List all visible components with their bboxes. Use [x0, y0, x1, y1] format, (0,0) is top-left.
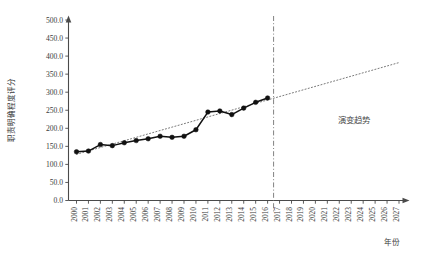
x-tick-label: 2011: [201, 207, 210, 222]
score-series-line: [77, 98, 268, 152]
data-point-marker: [86, 149, 91, 154]
data-point-marker: [158, 134, 163, 139]
chart-svg: 0.050.0100.0150.0200.0250.0300.0350.0400…: [0, 0, 424, 254]
x-tick-label: 2004: [117, 207, 126, 222]
x-axis-arrow: [403, 198, 410, 204]
y-axis-arrow: [66, 16, 72, 23]
data-point-marker: [134, 138, 139, 143]
x-tick-label: 2025: [368, 207, 377, 222]
x-tick-label-group: 2000200120022003200420052006200720082009…: [70, 207, 402, 222]
y-tick-label: 100.0: [46, 160, 63, 169]
y-tick-label: 500.0: [46, 16, 63, 25]
x-tick-label: 2017: [273, 207, 282, 222]
x-tick-label: 2019: [296, 207, 305, 222]
data-point-marker: [265, 96, 270, 101]
y-tick-label: 0.0: [54, 196, 64, 205]
x-tick-label: 2020: [308, 207, 317, 222]
x-tick-label: 2027: [392, 207, 401, 222]
x-tick-label: 2005: [129, 207, 138, 222]
y-tick-label: 300.0: [46, 88, 63, 97]
y-tick-label: 200.0: [46, 124, 63, 133]
y-tick-label: 350.0: [46, 70, 63, 79]
x-tick-label: 2026: [380, 207, 389, 222]
y-tick-label: 50.0: [50, 178, 63, 187]
trend-annotation-label: 演变趋势: [338, 115, 371, 125]
data-point-marker: [182, 134, 187, 139]
x-tick-label: 2024: [356, 207, 365, 222]
x-tick-label: 2009: [177, 207, 186, 222]
y-tick-label: 400.0: [46, 52, 63, 61]
x-tick-label: 2016: [261, 207, 270, 222]
x-tick-label: 2008: [165, 207, 174, 222]
x-tick-label: 2006: [141, 207, 150, 222]
x-tick-label: 2012: [213, 207, 222, 222]
y-tick-label: 450.0: [46, 34, 63, 43]
data-series-group: [74, 96, 270, 154]
chart-figure: 0.050.0100.0150.0200.0250.0300.0350.0400…: [0, 0, 424, 254]
annotation-group: 演变趋势: [338, 115, 371, 125]
x-tick-label: 2010: [189, 207, 198, 222]
x-axis-title: 年份: [384, 237, 400, 247]
data-point-marker: [110, 143, 115, 148]
x-tick-label: 2015: [249, 207, 258, 222]
data-point-marker: [206, 110, 211, 115]
x-axis: 2000200120022003200420052006200720082009…: [69, 198, 410, 222]
x-tick-label: 2022: [332, 207, 341, 222]
y-tick-label-group: 0.050.0100.0150.0200.0250.0300.0350.0400…: [46, 16, 63, 206]
x-tick-label: 2018: [285, 207, 294, 222]
x-tick-label: 2023: [344, 207, 353, 222]
x-tick-label: 2000: [70, 207, 79, 222]
y-tick-label: 250.0: [46, 106, 63, 115]
data-point-marker: [146, 136, 151, 141]
x-tick-label: 2003: [105, 207, 114, 222]
data-point-marker: [194, 127, 199, 132]
x-tick-label: 2014: [237, 207, 246, 222]
data-point-marker: [218, 109, 223, 114]
data-point-marker: [122, 140, 127, 145]
x-tick-label: 2002: [93, 207, 102, 222]
x-tick-label: 2001: [81, 207, 90, 222]
x-tick-label: 2021: [320, 207, 329, 222]
data-point-marker: [98, 142, 103, 147]
data-point-marker: [229, 112, 234, 117]
data-point-marker: [74, 149, 79, 154]
x-tick-label: 2013: [225, 207, 234, 222]
y-axis-title: 职责明确程度评分: [6, 78, 16, 142]
y-axis: 0.050.0100.0150.0200.0250.0300.0350.0400…: [46, 16, 71, 206]
data-point-marker: [170, 135, 175, 140]
x-tick-label: 2007: [153, 207, 162, 222]
y-tick-label: 150.0: [46, 142, 63, 151]
data-point-marker: [241, 106, 246, 111]
data-point-marker: [253, 100, 258, 105]
